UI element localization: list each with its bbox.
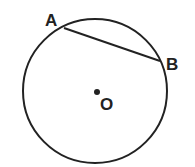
circle-diagram: A B O — [0, 0, 195, 167]
chord-ab — [64, 28, 160, 61]
label-a: A — [45, 11, 57, 30]
label-b: B — [166, 55, 178, 74]
label-o: O — [100, 95, 113, 114]
